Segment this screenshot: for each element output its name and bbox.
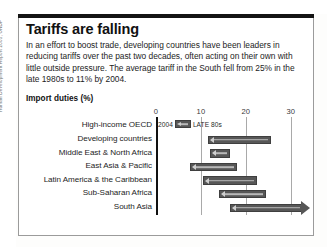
tick-label-30: 30 xyxy=(286,107,295,116)
bar-inner-line xyxy=(196,166,234,168)
chart-row: Latin America & the Caribbean xyxy=(26,174,310,187)
figure-page: Human Development Report 2005, UNDP Tari… xyxy=(0,0,327,247)
figure-content: Tariffs are falling In an effort to boos… xyxy=(26,22,310,230)
bar-arrowhead-icon xyxy=(221,191,225,197)
bar-inner-line xyxy=(209,180,254,182)
bar-arrowhead-icon xyxy=(192,164,196,170)
chart-row: Developing countries xyxy=(26,133,310,146)
legend-arrow-swatch xyxy=(175,120,191,128)
bar-arrowhead-icon xyxy=(210,137,214,143)
chart-subtitle: Import duties (%) xyxy=(26,94,310,103)
chart-row: High-income OECD2004LATE 80s xyxy=(26,119,310,132)
row-label-latin-america-the-caribbean: Latin America & the Caribbean xyxy=(12,175,152,184)
tick-label-20: 20 xyxy=(242,107,251,116)
bar-inner-line xyxy=(214,139,268,141)
tariff-range-chart: 0102030 High-income OECD2004LATE 80sDeve… xyxy=(26,107,310,215)
range-bar xyxy=(208,136,271,145)
range-bar xyxy=(230,204,302,213)
row-label-middle-east-north-africa: Middle East & North Africa xyxy=(12,148,152,157)
row-label-high-income-oecd: High-income OECD xyxy=(12,120,152,129)
chart-legend: 2004LATE 80s xyxy=(158,120,222,128)
bar-arrowhead-icon xyxy=(232,205,236,211)
chart-row: South Asia xyxy=(26,201,310,214)
source-credit: Human Development Report 2005, UNDP xyxy=(0,0,3,112)
range-bar xyxy=(219,190,266,199)
chart-row: East Asia & Pacific xyxy=(26,160,310,173)
legend-arrowhead-icon xyxy=(177,122,181,126)
bar-arrowhead-icon xyxy=(205,178,209,184)
bar-inner-line xyxy=(216,153,227,155)
row-label-sub-saharan-africa: Sub-Saharan Africa xyxy=(12,188,152,197)
legend-label-2004: 2004 xyxy=(158,121,173,128)
row-label-south-asia: South Asia xyxy=(12,202,152,211)
legend-arrow-line xyxy=(181,124,189,126)
figure-body-text: In an effort to boost trade, developing … xyxy=(26,40,305,86)
tick-label-0: 0 xyxy=(154,107,158,116)
figure-title: Tariffs are falling xyxy=(26,22,310,38)
row-label-developing-countries: Developing countries xyxy=(12,134,152,143)
row-label-east-asia-pacific: East Asia & Pacific xyxy=(12,161,152,170)
bar-inner-line xyxy=(236,207,300,209)
bar-arrowhead-icon xyxy=(212,150,216,156)
range-bar xyxy=(190,163,237,172)
figure-top-rule xyxy=(18,14,314,18)
chart-row: Middle East & North Africa xyxy=(26,147,310,160)
bar-open-tip-icon xyxy=(301,201,310,215)
chart-row: Sub-Saharan Africa xyxy=(26,187,310,200)
legend-label-late-80s: LATE 80s xyxy=(193,121,222,128)
scan-margin-top xyxy=(0,0,327,14)
tick-label-10: 10 xyxy=(197,107,206,116)
range-bar xyxy=(210,149,230,158)
bar-inner-line xyxy=(225,193,263,195)
range-bar xyxy=(203,176,257,185)
